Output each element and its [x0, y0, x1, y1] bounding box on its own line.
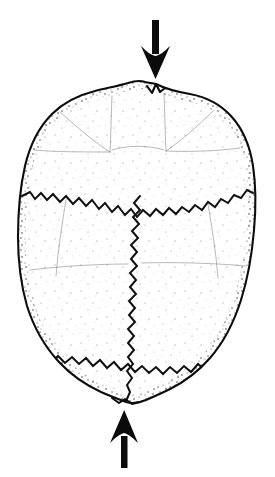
carapace-illustration: Turtle carapace dorsal view line drawing…: [0, 0, 275, 477]
anterior-arrow-shaft: [152, 20, 159, 54]
posterior-arrow-shaft: [121, 436, 128, 468]
figure-root: Turtle carapace dorsal view line drawing…: [0, 0, 275, 477]
